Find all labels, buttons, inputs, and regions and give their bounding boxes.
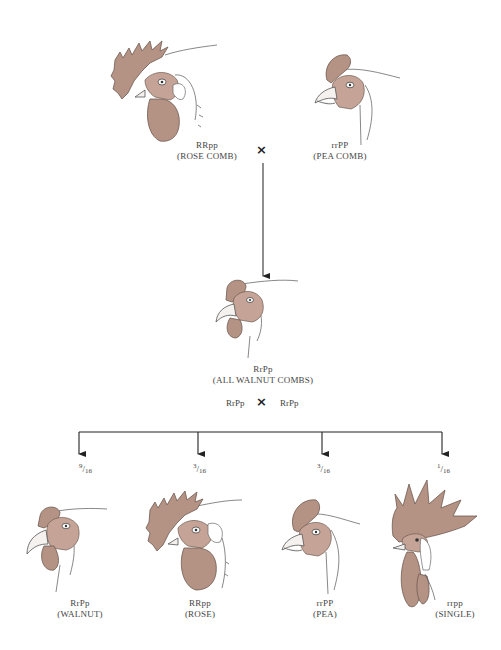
f2-rose-rooster-illustration xyxy=(142,478,247,598)
fraction-denominator: 16 xyxy=(85,467,92,475)
genotype: RRpp xyxy=(152,140,262,151)
f1-walnut-rooster-illustration xyxy=(212,276,302,361)
rose-comb-rooster-illustration xyxy=(105,35,220,155)
genotype: RRpp xyxy=(165,598,235,609)
genotype: RrPp xyxy=(40,598,120,609)
f1-cross-left-genotype: RrPp xyxy=(226,398,245,408)
fraction-denominator: 16 xyxy=(323,467,330,475)
fraction-denominator: 16 xyxy=(443,467,450,475)
fraction-denominator: 16 xyxy=(199,467,206,475)
f1-cross-right-genotype: RrPp xyxy=(280,398,299,408)
f1-label: RrPp (ALL WALNUT COMBS) xyxy=(198,364,328,386)
f2-single-label: rrpp (SINGLE) xyxy=(420,598,490,620)
f2-fraction-rose: 3/16 xyxy=(193,462,206,475)
f1-cross-symbol: × xyxy=(256,394,267,409)
fraction-numerator: 3 xyxy=(317,462,321,470)
genotype: rrPP xyxy=(290,598,360,609)
phenotype: (ROSE) xyxy=(165,609,235,620)
f2-single-comb-rooster-illustration xyxy=(385,478,485,613)
f2-rose-label: RRpp (ROSE) xyxy=(165,598,235,620)
phenotype: (SINGLE) xyxy=(420,609,490,620)
genotype: rrpp xyxy=(420,598,490,609)
f2-pea-rooster-illustration xyxy=(276,490,366,600)
fraction-numerator: 9 xyxy=(79,462,83,470)
f2-walnut-rooster-illustration xyxy=(22,500,112,595)
f2-walnut-label: RrPp (WALNUT) xyxy=(40,598,120,620)
phenotype: (PEA COMB) xyxy=(295,151,385,162)
genotype: rrPP xyxy=(295,140,385,151)
phenotype: (ROSE COMB) xyxy=(152,151,262,162)
fraction-numerator: 3 xyxy=(193,462,197,470)
parent-cross-symbol: × xyxy=(256,142,267,157)
parent-rose-label: RRpp (ROSE COMB) xyxy=(152,140,262,162)
f2-fraction-walnut: 9/16 xyxy=(79,462,92,475)
f2-fraction-single: 1/16 xyxy=(437,462,450,475)
f2-pea-label: rrPP (PEA) xyxy=(290,598,360,620)
phenotype: (WALNUT) xyxy=(40,609,120,620)
phenotype: (ALL WALNUT COMBS) xyxy=(198,375,328,386)
phenotype: (PEA) xyxy=(290,609,360,620)
f2-fraction-pea: 3/16 xyxy=(317,462,330,475)
parent-pea-label: rrPP (PEA COMB) xyxy=(295,140,385,162)
fraction-numerator: 1 xyxy=(437,462,441,470)
genotype: RrPp xyxy=(198,364,328,375)
